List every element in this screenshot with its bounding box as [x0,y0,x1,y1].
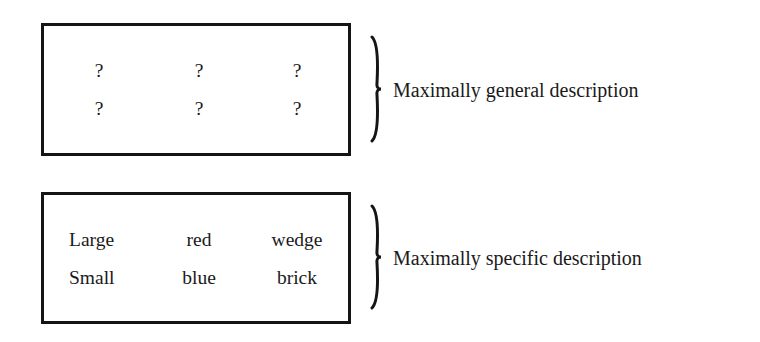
specific-cell: blue [182,268,216,288]
specific-cell: wedge [272,230,323,250]
specific-description-label: Maximally specific description [393,247,642,269]
general-cell: ? [95,61,104,81]
general-description-box: ? ? ? ? ? ? [41,23,351,156]
specific-cell: Small [69,268,115,288]
general-cell: ? [293,61,302,81]
specific-cell: red [187,230,212,250]
general-cell: ? [195,99,204,119]
specific-cell: Large [69,230,114,250]
general-description-label: Maximally general description [393,79,638,101]
right-brace-icon [366,35,388,143]
general-cell: ? [195,61,204,81]
specific-cell: brick [277,268,317,288]
specific-description-box: Large red wedge Small blue brick [41,192,351,324]
right-brace-icon [366,204,388,310]
general-cell: ? [95,99,104,119]
general-cell: ? [293,99,302,119]
